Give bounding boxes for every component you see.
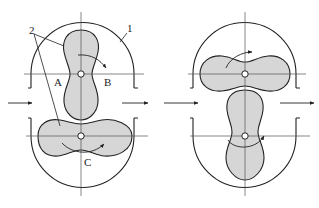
label-casing: 1 [127, 22, 133, 34]
label-chamber-b: B [104, 76, 111, 88]
right-view [164, 12, 314, 196]
lower-shaft [78, 133, 84, 139]
label-chamber-c: C [84, 156, 91, 168]
leader-1 [120, 33, 127, 42]
left-view: 2 1 A B C [8, 12, 148, 196]
label-rotors: 2 [29, 24, 35, 36]
lower-rotor [38, 120, 132, 156]
upper-shaft [78, 71, 84, 77]
lower-shaft-right [242, 133, 248, 139]
leader-2a [34, 34, 64, 46]
label-chamber-a: A [54, 76, 62, 88]
roots-pump-diagram: 2 1 A B C [0, 0, 319, 208]
upper-shaft-right [242, 71, 248, 77]
